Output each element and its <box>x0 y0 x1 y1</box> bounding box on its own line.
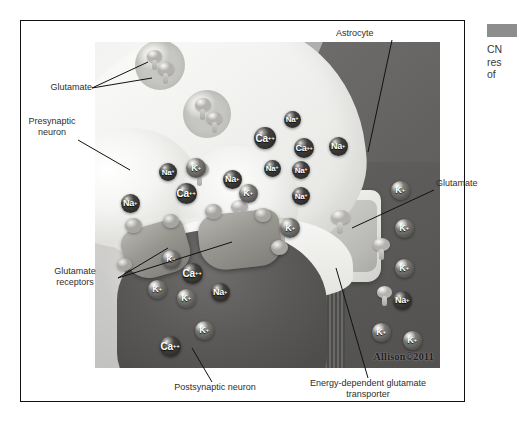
leader-receptors-b <box>118 242 232 278</box>
leader-glutamate-left-a <box>92 62 148 88</box>
leader-postsynaptic <box>192 348 212 382</box>
label-postsynaptic-neuron: Postsynaptic neuron <box>156 382 274 393</box>
figure-page: CN res of <box>0 0 520 428</box>
leader-astrocyte <box>368 40 392 152</box>
leader-receptors-a <box>118 248 168 278</box>
label-presynaptic-neuron: Presynaptic neuron <box>12 116 92 138</box>
leader-presynaptic <box>78 140 130 170</box>
label-glutamate-right: Glutamate <box>436 178 502 189</box>
leader-glutamate-right <box>352 190 434 228</box>
leader-lines <box>0 0 520 428</box>
label-glutamate-left: Glutamate <box>16 82 92 93</box>
label-transporter: Energy-dependent glutamate transporter <box>292 378 444 400</box>
leader-transporter <box>336 268 368 378</box>
label-astrocyte: Astrocyte <box>336 28 406 39</box>
leader-glutamate-left-b <box>92 78 152 88</box>
label-glutamate-receptors: Glutamate receptors <box>32 266 118 288</box>
